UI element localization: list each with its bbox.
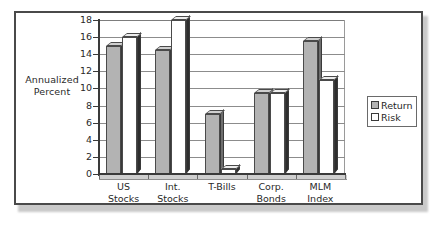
bar-risk-int-stocks [171, 20, 186, 174]
bar-side-face [334, 75, 338, 174]
bar-front-face [270, 93, 285, 174]
x-axis-line [98, 173, 346, 175]
y-axis-tick-label: 4 [70, 134, 92, 145]
x-axis-tick [345, 175, 346, 179]
y-axis-tick [93, 54, 98, 55]
y-axis-tick [93, 88, 98, 89]
bar-side-face [137, 32, 141, 174]
plot-area [99, 20, 345, 174]
x-axis-category-line: Index [294, 193, 346, 205]
y-axis-tick-label: 14 [70, 48, 92, 59]
y-axis-tick [93, 37, 98, 38]
y-axis-tick-label: 12 [70, 65, 92, 76]
y-axis-line [98, 19, 100, 176]
y-axis-tick-label: 6 [70, 117, 92, 128]
bar-risk-mlm-index [319, 80, 334, 174]
bar-risk-corp-bonds [270, 93, 285, 174]
legend-item-return: Return [371, 99, 413, 111]
bar-risk-us-stocks [122, 37, 137, 174]
y-axis-tick-labels: 024681012141618 [66, 20, 92, 174]
bar-return-us-stocks [106, 46, 121, 174]
y-axis-tick-label: 18 [70, 14, 92, 25]
chart-figure: Annualized Percent 024681012141618 USSto… [0, 0, 439, 225]
x-axis-category-line: Corp. [245, 181, 297, 193]
y-axis-tick-label: 2 [70, 151, 92, 162]
x-axis-category-line: Bonds [245, 193, 297, 205]
bar-return-int-stocks [155, 50, 170, 174]
y-axis-tick-label: 0 [70, 168, 92, 179]
bar-side-face [186, 15, 190, 174]
bar-front-face [122, 37, 137, 174]
y-axis-tick [93, 20, 98, 21]
y-axis-tick [93, 106, 98, 107]
y-axis-tick-label: 10 [70, 82, 92, 93]
x-axis-tick [99, 175, 100, 179]
legend-item-risk: Risk [371, 111, 413, 123]
x-axis-category-label: MLMIndex [294, 181, 346, 204]
y-axis-tick [93, 157, 98, 158]
x-axis-tick [247, 175, 248, 179]
legend-label-risk: Risk [381, 112, 401, 123]
x-axis-category-line: Int. [147, 181, 199, 193]
x-axis-tick [296, 175, 297, 179]
x-axis-category-label: USStocks [98, 181, 150, 204]
x-axis-category-line: US [98, 181, 150, 193]
y-axis-tick-label: 16 [70, 31, 92, 42]
bar-front-face [106, 46, 121, 174]
bar-return-corp-bonds [254, 93, 269, 174]
plot-border-top [99, 20, 345, 21]
legend: Return Risk [367, 96, 417, 127]
bar-side-face [285, 88, 289, 174]
x-axis-category-label: Int.Stocks [147, 181, 199, 204]
y-axis-tick [93, 140, 98, 141]
x-axis-category-line: MLM [294, 181, 346, 193]
bar-front-face [171, 20, 186, 174]
x-axis-tick [197, 175, 198, 179]
bar-front-face [155, 50, 170, 174]
y-axis-tick [93, 71, 98, 72]
bar-front-face [254, 93, 269, 174]
x-axis-category-labels: USStocksInt.StocksT-BillsCorp.BondsMLMIn… [99, 181, 345, 211]
plot-border-right [344, 20, 345, 174]
x-axis-depth [99, 175, 347, 180]
x-axis-category-line: T-Bills [196, 181, 248, 193]
bar-return-t-bills [205, 114, 220, 174]
bar-front-face [319, 80, 334, 174]
y-axis-tick [93, 123, 98, 124]
white-swatch-icon [371, 113, 379, 121]
x-axis-category-line: Stocks [98, 193, 150, 205]
x-axis-category-label: T-Bills [196, 181, 248, 193]
bar-front-face [205, 114, 220, 174]
x-axis-category-line: Stocks [147, 193, 199, 205]
bar-front-face [303, 41, 318, 174]
x-axis-tick [148, 175, 149, 179]
legend-label-return: Return [381, 100, 413, 111]
x-axis-category-label: Corp.Bonds [245, 181, 297, 204]
y-axis-tick-label: 8 [70, 100, 92, 111]
bar-return-mlm-index [303, 41, 318, 174]
bar-side-face [220, 109, 224, 174]
gray-swatch-icon [371, 101, 379, 109]
